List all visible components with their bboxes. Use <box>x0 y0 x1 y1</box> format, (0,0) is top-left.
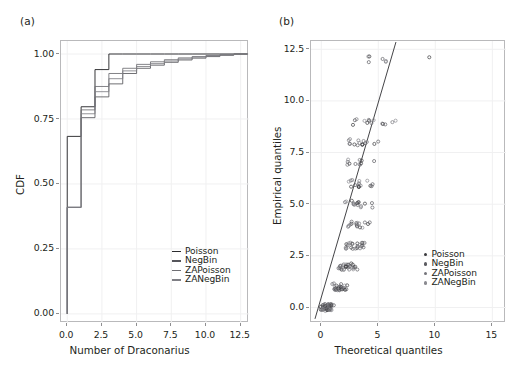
x-tick-mark <box>320 323 321 326</box>
panel-b-y-axis-title: Empirical quantiles <box>271 127 283 226</box>
y-tick-mark <box>306 307 309 308</box>
y-tick-label: 0.50 <box>22 177 54 188</box>
y-tick-label: 1.00 <box>22 48 54 59</box>
legend-line-swatch-icon <box>172 260 181 261</box>
y-tick-label: 0.75 <box>22 113 54 124</box>
legend-line-swatch-icon <box>172 279 181 280</box>
x-tick-mark <box>491 323 492 326</box>
y-tick-mark <box>306 48 309 49</box>
y-tick-mark <box>306 255 309 256</box>
legend-dot-swatch-icon <box>424 272 427 275</box>
y-tick-label: 0.0 <box>273 301 304 312</box>
panel-b-label: (b) <box>279 15 294 27</box>
legend-label: ZANegBin <box>185 275 229 284</box>
y-tick-mark <box>56 313 59 314</box>
legend-label: ZANegBin <box>431 278 475 287</box>
x-tick-label: 10 <box>414 329 454 340</box>
panel-a-x-axis-title: Number of Draconarius <box>0 344 259 356</box>
x-tick-label: 0 <box>300 329 340 340</box>
x-tick-label: 12.5 <box>220 329 260 340</box>
y-tick-label: 0.00 <box>22 307 54 318</box>
y-tick-mark <box>306 100 309 101</box>
figure-container: (a) 0.000.250.500.751.000.02.55.07.510.0… <box>0 0 518 387</box>
x-tick-label: 5 <box>357 329 397 340</box>
panel-a-legend: PoissonNegBinZAPoissonZANegBin <box>172 247 231 285</box>
x-tick-mark <box>377 323 378 326</box>
panel-a-label: (a) <box>20 15 35 27</box>
x-tick-mark <box>136 323 137 326</box>
y-tick-mark <box>56 53 59 54</box>
x-tick-mark <box>66 323 67 326</box>
x-tick-mark <box>434 323 435 326</box>
x-tick-mark <box>240 323 241 326</box>
y-tick-mark <box>56 118 59 119</box>
legend-item-zanegbin: ZANegBin <box>172 275 231 284</box>
x-tick-mark <box>205 323 206 326</box>
legend-line-swatch-icon <box>172 251 181 252</box>
y-tick-label: 12.5 <box>273 43 304 54</box>
panel-a: (a) 0.000.250.500.751.000.02.55.07.510.0… <box>0 0 259 387</box>
legend-dot-swatch-icon <box>424 253 427 256</box>
legend-dot-swatch-icon <box>424 262 427 265</box>
panel-a-y-axis-title: CDF <box>14 174 26 195</box>
panel-b: (b) 0.02.55.07.510.012.5051015 Theoretic… <box>259 0 518 387</box>
x-tick-mark <box>170 323 171 326</box>
y-tick-mark <box>56 183 59 184</box>
y-tick-mark <box>56 248 59 249</box>
y-tick-label: 10.0 <box>273 94 304 105</box>
legend-line-swatch-icon <box>172 270 181 271</box>
y-tick-mark <box>306 152 309 153</box>
panel-b-x-axis-title: Theoretical quantiles <box>259 344 518 356</box>
legend-item-zanegbin: ZANegBin <box>421 278 477 287</box>
x-tick-mark <box>101 323 102 326</box>
panel-b-legend: PoissonNegBinZAPoissonZANegBin <box>421 250 477 288</box>
y-tick-mark <box>306 203 309 204</box>
x-tick-label: 15 <box>471 329 511 340</box>
y-tick-label: 2.5 <box>273 249 304 260</box>
legend-dot-swatch-icon <box>424 281 427 284</box>
y-tick-label: 0.25 <box>22 242 54 253</box>
